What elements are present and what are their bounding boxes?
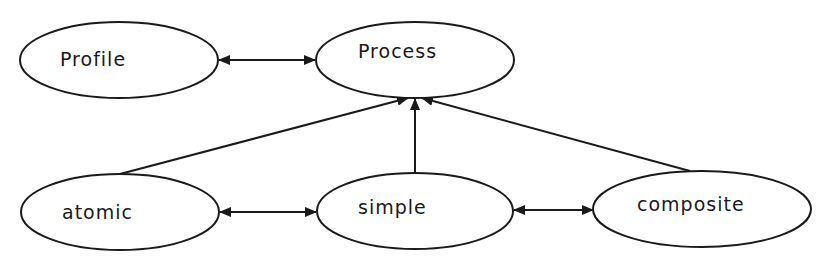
node-profile: Profile — [20, 22, 218, 98]
node-process-label: Process — [358, 40, 437, 62]
edge-atomic-process — [120, 98, 408, 174]
node-composite: composite — [593, 171, 811, 247]
node-simple: simple — [317, 173, 513, 249]
node-atomic-label: atomic — [62, 201, 133, 223]
node-simple-label: simple — [358, 196, 427, 218]
edge-composite-process — [422, 98, 690, 171]
process-hierarchy-diagram: Profile Process atomic simple composite — [0, 0, 831, 264]
node-atomic: atomic — [21, 174, 219, 250]
node-composite-label: composite — [637, 193, 745, 215]
node-process: Process — [316, 22, 514, 98]
node-profile-label: Profile — [60, 48, 126, 70]
